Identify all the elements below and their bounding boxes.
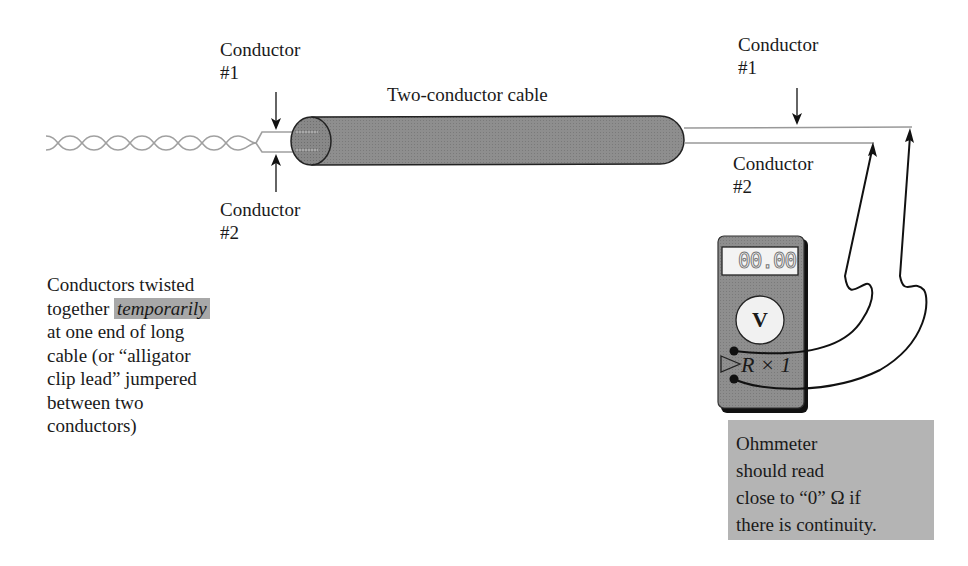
ohmmeter-callout: Ohmmeter should read close to “0” Ω if t… (728, 420, 934, 540)
twisted-conductors (46, 132, 296, 152)
right-conductors (684, 127, 912, 143)
twisted-note: Conductors twisted together temporarily … (47, 273, 210, 438)
conductor2-right-label: Conductor #2 (733, 152, 813, 198)
cable-label: Two-conductor cable (387, 83, 548, 106)
two-conductor-cable (291, 116, 684, 165)
conductor1-left-label: Conductor #1 (220, 38, 300, 84)
conductor1-left-arrow (271, 92, 281, 130)
conductor1-right-arrow (792, 88, 802, 125)
conductor2-left-label: Conductor #2 (220, 198, 300, 244)
meter-dial-label: V (736, 307, 784, 333)
temporarily-highlight: temporarily (114, 298, 210, 319)
meter-range-label: R × 1 (741, 352, 791, 378)
conductor2-left-arrow (271, 154, 281, 192)
meter-display-reading: 00.00 (738, 248, 796, 274)
conductor1-right-label: Conductor #1 (738, 33, 818, 79)
lead-arrowhead-1 (868, 142, 877, 157)
